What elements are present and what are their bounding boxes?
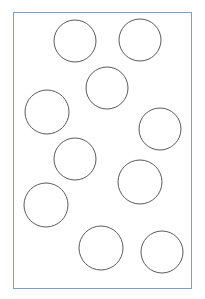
circles-canvas	[0, 0, 205, 299]
circle-6	[54, 138, 96, 180]
circle-3	[86, 67, 128, 109]
circle-10	[141, 231, 183, 273]
circle-2	[119, 19, 161, 61]
circle-1	[54, 20, 96, 62]
circle-9	[79, 226, 123, 270]
circle-7	[118, 160, 162, 204]
circle-4	[25, 90, 69, 134]
circle-5	[139, 108, 181, 150]
circle-8	[24, 183, 68, 227]
